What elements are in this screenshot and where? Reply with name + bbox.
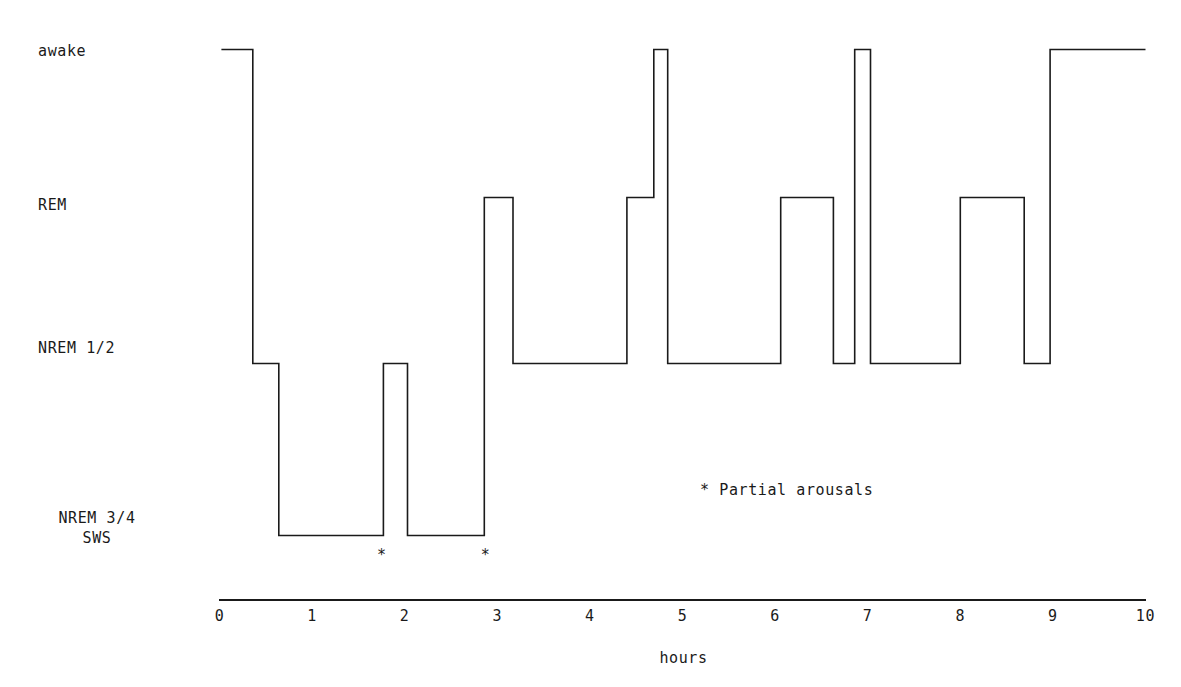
x-tick-label-4: 4 xyxy=(570,607,610,625)
hypnogram-figure: awake REM NREM 1/2 NREM 3/4 SWS 01234567… xyxy=(0,0,1181,687)
x-tick-label-1: 1 xyxy=(292,607,332,625)
x-tick-label-9: 9 xyxy=(1033,607,1073,625)
x-tick-label-6: 6 xyxy=(755,607,795,625)
x-tick-label-8: 8 xyxy=(940,607,980,625)
legend-partial-arousals: * Partial arousals xyxy=(700,481,873,499)
x-tick-label-2: 2 xyxy=(385,607,425,625)
hypnogram-plot-area xyxy=(0,0,1181,687)
sleep-stage-trace xyxy=(221,50,1145,536)
partial-arousal-star-1: * xyxy=(372,546,392,564)
x-tick-label-5: 5 xyxy=(663,607,703,625)
x-tick-label-10: 10 xyxy=(1126,607,1166,625)
x-tick-label-7: 7 xyxy=(848,607,888,625)
partial-arousal-star-2: * xyxy=(475,546,495,564)
x-axis-title: hours xyxy=(0,649,1181,667)
x-axis-title-text: hours xyxy=(659,649,707,667)
x-tick-label-0: 0 xyxy=(200,607,240,625)
x-tick-label-3: 3 xyxy=(477,607,517,625)
